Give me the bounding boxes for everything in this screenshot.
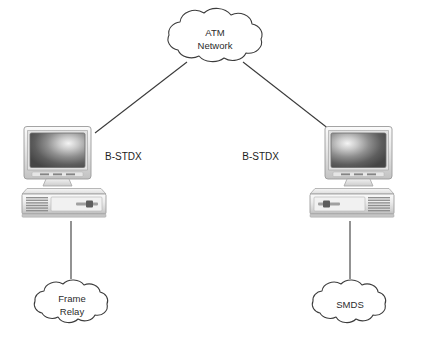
smds-cloud: SMDS (312, 280, 385, 323)
frame-relay-cloud: Frame Relay (34, 280, 107, 323)
left-switch-node: B-STDX (22, 127, 142, 218)
network-diagram: ATM Network Frame Relay SMDS B-STDX B-ST (0, 0, 427, 353)
computer-icon-left (22, 127, 106, 218)
left-switch-label: B-STDX (105, 151, 142, 162)
right-switch-label: B-STDX (242, 151, 279, 162)
atm-to-left-switch-line (95, 62, 187, 133)
diagram-canvas: ATM Network Frame Relay SMDS B-STDX B-ST (0, 0, 427, 353)
atm-to-right-switch-line (243, 62, 334, 133)
atm-cloud-label-line1: ATM (205, 27, 224, 38)
computer-icon-right (310, 127, 394, 218)
frame-relay-cloud-label-line1: Frame (58, 293, 85, 304)
link-group (71, 62, 350, 279)
atm-network-cloud: ATM Network (168, 8, 262, 61)
right-switch-node: B-STDX (242, 127, 394, 218)
frame-relay-cloud-label-line2: Relay (60, 306, 85, 317)
smds-cloud-label-line1: SMDS (336, 299, 363, 310)
atm-cloud-label-line2: Network (198, 40, 233, 51)
